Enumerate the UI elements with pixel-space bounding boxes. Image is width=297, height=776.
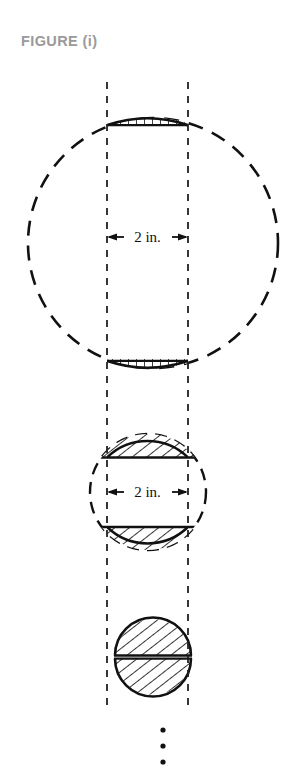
geometry-diagram: 2 in. 2 in. (0, 0, 297, 776)
large-circle-bottom-cap (100, 359, 200, 375)
large-circle-top-cap (100, 110, 200, 126)
figure-container: FIGURE (i) (0, 0, 297, 776)
dimension-top-left-arrow-icon (107, 233, 117, 240)
dimension-middle-right-arrow-icon (178, 488, 188, 495)
dimension-middle-left-arrow-icon (107, 488, 117, 495)
medium-circle-bottom-cap (85, 527, 215, 554)
dimension-middle: 2 in. (107, 484, 188, 500)
dimension-top: 2 in. (107, 229, 188, 245)
vertical-ellipsis-icon (160, 727, 165, 764)
dimension-top-label: 2 in. (134, 229, 161, 245)
dimension-top-right-arrow-icon (178, 233, 188, 240)
dimension-middle-label: 2 in. (134, 484, 161, 500)
small-circle (110, 617, 200, 697)
